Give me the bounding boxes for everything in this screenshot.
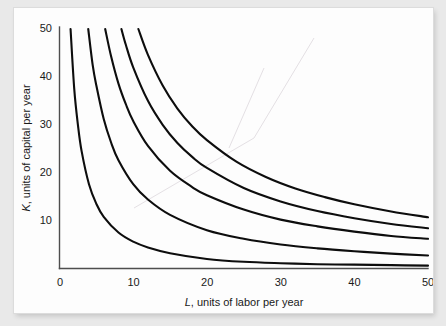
isoquant-chart: 50 40 30 20 10 0 10 20 30 40 50 L, units… [14,8,433,313]
axis-lines [60,27,429,269]
y-tick-labels: 50 40 30 20 10 [40,22,52,226]
y-tick-20: 20 [40,166,52,178]
x-tick-10: 10 [127,276,139,288]
x-tick-0: 0 [57,276,63,288]
x-tick-30: 30 [275,276,287,288]
y-tick-40: 40 [40,70,52,82]
figure-panel: 50 40 30 20 10 0 10 20 30 40 50 L, units… [14,8,433,313]
x-axis-title: L, units of labor per year [185,296,304,308]
x-axis-title-rest: , units of labor per year [191,296,304,308]
x-tick-labels: 0 10 20 30 40 50 [57,276,433,288]
x-tick-40: 40 [348,276,360,288]
figure-root: 50 40 30 20 10 0 10 20 30 40 50 L, units… [0,0,446,326]
isoquant-curve-4 [121,29,428,228]
isoquant-curve-5 [138,29,428,217]
isoquant-curves [71,29,428,266]
y-tick-10: 10 [40,214,52,226]
y-axis-title-rest: , units of capital per year [20,84,32,204]
y-tick-30: 30 [40,118,52,130]
isoquant-curve-3 [105,29,428,239]
x-tick-20: 20 [201,276,213,288]
isoquant-curve-1 [71,29,428,266]
x-tick-50: 50 [422,276,433,288]
y-axis-title: K, units of capital per year [20,84,32,212]
y-tick-50: 50 [40,22,52,34]
